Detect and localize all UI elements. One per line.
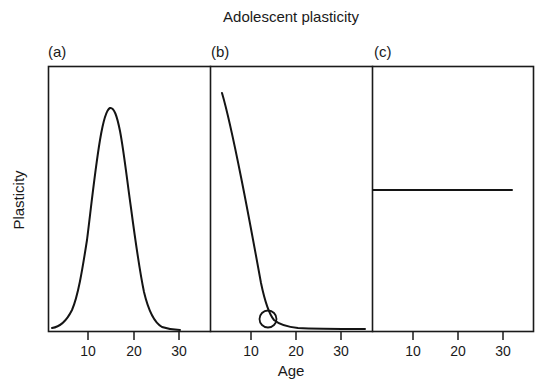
- curve-panel-b: [222, 93, 365, 329]
- figure-container: Adolescent plasticity Plasticity Age (a)…: [0, 0, 549, 389]
- panel-c-ticks: [413, 332, 503, 341]
- panel-b-tick-10: 10: [243, 343, 259, 359]
- plot-frame: [49, 67, 534, 332]
- panel-c: 10 20 30: [373, 190, 512, 359]
- y-axis-label: Plasticity: [10, 170, 27, 230]
- panel-c-tick-20: 20: [450, 343, 466, 359]
- panel-a-ticks: [88, 332, 179, 341]
- panel-label-b: (b): [211, 43, 229, 60]
- panel-label-a: (a): [48, 43, 66, 60]
- panel-a-tick-20: 20: [126, 343, 142, 359]
- curve-panel-a: [52, 108, 180, 330]
- panel-c-tick-30: 30: [495, 343, 511, 359]
- panel-b-tick-20: 20: [288, 343, 304, 359]
- panel-b: 10 20 30: [222, 93, 365, 359]
- plasticity-figure: Adolescent plasticity Plasticity Age (a)…: [0, 0, 549, 389]
- panel-b-ticks: [251, 332, 341, 341]
- x-axis-label: Age: [278, 362, 305, 379]
- panel-b-tick-30: 30: [333, 343, 349, 359]
- panel-a-tick-10: 10: [80, 343, 96, 359]
- panel-a: 10 20 30: [52, 108, 187, 359]
- panel-label-c: (c): [374, 43, 392, 60]
- panel-a-tick-30: 30: [171, 343, 187, 359]
- panel-c-tick-10: 10: [405, 343, 421, 359]
- figure-title: Adolescent plasticity: [223, 8, 359, 25]
